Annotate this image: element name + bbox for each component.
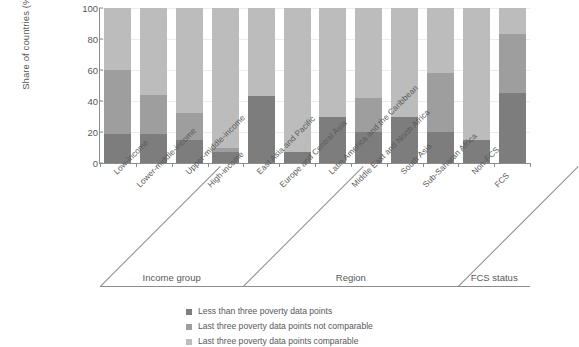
bar-low-income (104, 8, 131, 163)
x-tickmark (458, 163, 459, 167)
group-bracket-line (100, 286, 243, 287)
bar-east-asia-and-pacific (248, 8, 275, 163)
legend-label-not-comparable: Last three poverty data points not compa… (198, 322, 373, 331)
y-tick-label-60: 60 (64, 65, 98, 76)
group-label-fcs-status: FCS status (471, 272, 518, 283)
bar-segment (427, 8, 454, 73)
y-tick-label-0: 0 (64, 158, 98, 169)
x-tickmark (315, 163, 316, 167)
x-tickmark (243, 163, 244, 167)
bar-segment (355, 8, 382, 98)
group-label-income-group: Income group (143, 272, 201, 283)
x-tickmark (136, 163, 137, 167)
legend-label-comparable: Last three poverty data points comparabl… (198, 337, 359, 346)
bar-segment (463, 8, 490, 140)
group-bracket-leader (100, 166, 221, 287)
y-tick-label-100: 100 (64, 3, 98, 14)
x-tickmark (172, 163, 173, 167)
bar-sub-saharan-africa (427, 8, 454, 163)
group-bracket-line (458, 286, 530, 287)
bar-segment (176, 8, 203, 113)
group-bracket-line (243, 286, 458, 287)
bar-segment (140, 8, 167, 95)
y-axis-ticks: 100 80 60 40 20 0 (60, 0, 98, 171)
bar-segment (499, 93, 526, 163)
legend-item-less-than-three: Less than three poverty data points (186, 305, 373, 318)
x-tickmark (208, 163, 209, 167)
legend-item-comparable: Last three poverty data points comparabl… (186, 335, 373, 347)
legend: Less than three poverty data points Last… (186, 305, 373, 347)
bar-segment (104, 8, 131, 70)
legend-label-less-than-three: Less than three poverty data points (198, 307, 332, 316)
bar-segment (499, 8, 526, 34)
legend-swatch-less-than-three (186, 309, 192, 315)
y-axis-title: Share of countries (%) (20, 0, 31, 119)
x-label-fcs: FCS (493, 171, 511, 189)
legend-swatch-comparable (186, 339, 192, 345)
legend-item-not-comparable: Last three poverty data points not compa… (186, 320, 373, 333)
bar-segment (499, 34, 526, 93)
bar-segment (427, 73, 454, 132)
group-bracket-leader (243, 166, 364, 287)
x-tickmark (494, 163, 495, 167)
bar-fcs (499, 8, 526, 163)
group-bracket-leader (458, 166, 579, 287)
y-tick-label-40: 40 (64, 96, 98, 107)
group-label-region: Region (336, 272, 366, 283)
y-tick-label-80: 80 (64, 34, 98, 45)
x-tickmark (100, 163, 101, 167)
x-tickmark (530, 163, 531, 167)
legend-swatch-not-comparable (186, 324, 192, 330)
bar-segment (140, 95, 167, 134)
bar-segment (319, 8, 346, 117)
x-tickmark (387, 163, 388, 167)
x-tickmark (351, 163, 352, 167)
bar-segment (104, 70, 131, 134)
x-tickmark (279, 163, 280, 167)
x-tickmark (423, 163, 424, 167)
y-tick-label-20: 20 (64, 127, 98, 138)
bar-segment (248, 8, 275, 96)
